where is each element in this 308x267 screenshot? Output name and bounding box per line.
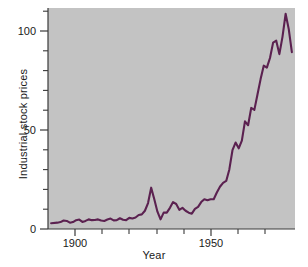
x-axis-label: Year [0, 249, 308, 261]
y-axis-minor-ticks [43, 11, 48, 209]
x-tick-label-1950: 1950 [199, 237, 223, 249]
x-axis-major-ticks [75, 229, 211, 236]
y-tick-label-0: 0 [30, 223, 36, 235]
plot-area-background [48, 8, 295, 229]
y-tick-label-100: 100 [18, 25, 36, 37]
chart-figure: 0 50 100 1900 1950 Industrial stock pric… [0, 0, 308, 267]
y-axis-label: Industrial stock prices [17, 54, 29, 194]
industrial-stock-prices-line-chart: 0 50 100 1900 1950 [0, 0, 308, 267]
x-axis-minor-ticks [102, 229, 265, 234]
x-tick-label-1900: 1900 [63, 237, 87, 249]
y-axis-major-ticks [40, 31, 48, 229]
